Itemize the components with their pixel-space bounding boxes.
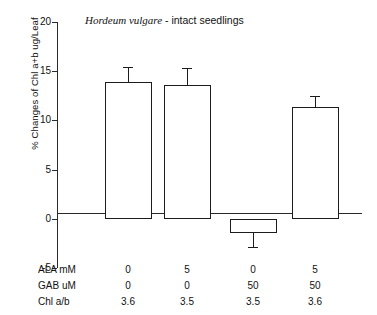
condition-value: 5 (295, 264, 335, 275)
y-tick-label: 5 (5, 164, 51, 175)
y-tick (52, 120, 57, 121)
error-bar-stem (128, 67, 129, 82)
y-tick-label: 20 (5, 16, 51, 27)
condition-value: 50 (233, 280, 273, 291)
condition-value: 0 (167, 280, 207, 291)
bar (105, 82, 152, 219)
error-bar-cap (248, 247, 258, 248)
bar (164, 85, 211, 219)
condition-label: GAB uM (38, 280, 76, 291)
condition-value: 3.6 (108, 296, 148, 307)
y-tick-label: 0 (5, 213, 51, 224)
y-tick-label: 15 (5, 65, 51, 76)
condition-row: GAB uM005050 (0, 280, 377, 296)
condition-value: 3.5 (233, 296, 273, 307)
condition-row: Chl a/b3.63.53.53.6 (0, 296, 377, 312)
condition-value: 50 (295, 280, 335, 291)
error-bar-stem (187, 68, 188, 85)
error-bar-cap (310, 96, 320, 97)
error-bar-cap (123, 67, 133, 68)
condition-table: ALA mM0505GAB uM005050Chl a/b3.63.53.53.… (0, 264, 377, 312)
condition-value: 5 (167, 264, 207, 275)
y-tick (52, 170, 57, 171)
y-tick (52, 22, 57, 23)
condition-label: ALA mM (38, 264, 76, 275)
chart-figure: % Changes of Chl a+b ug/Leaf Hordeum vul… (0, 0, 377, 315)
y-axis-line (57, 22, 58, 268)
error-bar-stem (253, 233, 254, 248)
y-tick (52, 71, 57, 72)
condition-row: ALA mM0505 (0, 264, 377, 280)
condition-value: 3.5 (167, 296, 207, 307)
condition-label: Chl a/b (38, 296, 70, 307)
condition-value: 0 (108, 264, 148, 275)
y-axis-label: % Changes of Chl a+b ug/Leaf (29, 0, 40, 184)
error-bar-cap (182, 68, 192, 69)
plot-area: 20151050-5 (57, 22, 362, 268)
condition-value: 3.6 (295, 296, 335, 307)
error-bar-stem (315, 96, 316, 107)
y-tick-label: 10 (5, 114, 51, 125)
y-tick (52, 219, 57, 220)
bar (292, 107, 339, 219)
condition-value: 0 (108, 280, 148, 291)
condition-value: 0 (233, 264, 273, 275)
bar (230, 219, 277, 233)
